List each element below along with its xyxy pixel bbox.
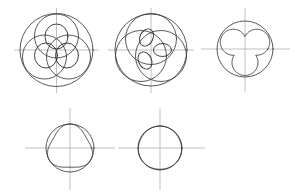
geometric-figure-canvas: [0, 0, 299, 196]
